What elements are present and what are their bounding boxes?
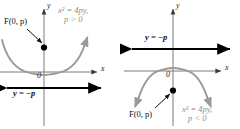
origin-label: 0: [166, 71, 170, 79]
parabola-figure: F(0, p) x² = 4py, p > 0 y = −p x y 0: [0, 0, 240, 129]
x-axis-label: x: [101, 65, 105, 73]
parabola-arrow-left: [135, 97, 139, 107]
parabola-panel-up: F(0, p) x² = 4py, p > 0 y = −p x y 0: [0, 0, 120, 129]
directrix-label: y = −p: [13, 89, 35, 98]
focus-leader-line: [27, 29, 42, 43]
equation-label: x² = 4py, p < 0: [182, 105, 212, 123]
origin-label: 0: [37, 72, 41, 80]
equation-line-2: p < 0: [182, 114, 212, 123]
directrix-label: y = −p: [145, 33, 167, 42]
focus-point: [41, 44, 47, 50]
y-axis-label: y: [176, 2, 180, 10]
y-axis-label: y: [47, 2, 51, 10]
focus-label: F(0, p): [129, 110, 152, 119]
focus-label: F(0, p): [4, 17, 27, 26]
focus-point: [170, 87, 176, 93]
equation-label: x² = 4py, p > 0: [58, 6, 88, 24]
focus-leader-line: [155, 94, 170, 108]
equation-line-2: p > 0: [58, 15, 88, 24]
x-axis-label: x: [225, 64, 229, 72]
parabola-panel-down: y = −p F(0, p) x² = 4py, p < 0 x y 0: [120, 0, 240, 129]
